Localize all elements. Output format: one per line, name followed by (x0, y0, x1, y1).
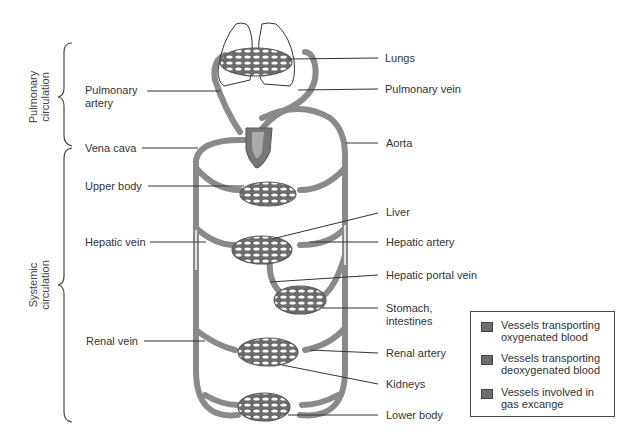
legend-item-deoxygenated: Vessels transporting deoxygenated blood (481, 352, 611, 376)
capillary-beds (220, 48, 326, 421)
label-lower-body: Lower body (386, 409, 443, 422)
label-vena-cava: Vena cava (85, 142, 136, 155)
label-hepatic-portal-vein: Hepatic portal vein (386, 269, 477, 282)
upper-body-capillaries (240, 182, 296, 206)
label-kidneys: Kidneys (386, 378, 425, 391)
heart (246, 128, 272, 168)
legend-item-gas-exchange: Vessels involved in gas excange (481, 386, 611, 410)
deoxygenated-swatch-icon (481, 355, 493, 365)
systemic-bracket (58, 148, 72, 422)
pulmonary-circulation-label: Pulmonary circulation (27, 61, 53, 133)
label-hepatic-vein: Hepatic vein (85, 236, 146, 249)
lungs-capillaries (220, 48, 292, 76)
label-hepatic-artery: Hepatic artery (386, 236, 454, 249)
label-renal-vein: Renal vein (86, 335, 138, 348)
legend: Vessels transporting oxygenated blood Ve… (470, 311, 615, 417)
label-renal-artery: Renal artery (386, 347, 446, 360)
label-liver: Liver (386, 206, 410, 219)
oxygenated-swatch-icon (481, 322, 493, 332)
label-stomach-intestines: Stomach, intestines (386, 302, 432, 328)
label-pulmonary-artery: Pulmonary artery (85, 84, 138, 110)
label-aorta: Aorta (386, 137, 412, 150)
lower-body-capillaries (238, 393, 290, 421)
label-pulmonary-vein: Pulmonary vein (385, 83, 461, 96)
circulatory-system-diagram: Pulmonary circulation Systemic circulati… (0, 0, 639, 447)
kidney-capillaries (238, 338, 298, 366)
stomach-capillaries (274, 286, 326, 314)
label-upper-body: Upper body (85, 180, 142, 193)
liver-capillaries (232, 236, 292, 264)
pulmonary-bracket (58, 43, 72, 146)
label-lungs: Lungs (385, 52, 415, 65)
legend-item-oxygenated: Vessels transporting oxygenated blood (481, 319, 611, 343)
systemic-circulation-label: Systemic circulation (27, 249, 53, 321)
gas-exchange-swatch-icon (481, 389, 493, 399)
